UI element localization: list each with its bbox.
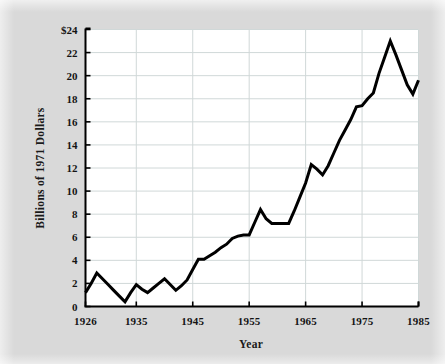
y-tick-label: 22 <box>67 47 79 59</box>
y-tick-label: 6 <box>72 231 78 243</box>
y-tick-label: 16 <box>67 116 79 128</box>
y-tick-label: 20 <box>67 70 79 82</box>
x-axis-tick-labels: 1926193519451955196519751985 <box>74 315 430 327</box>
y-tick-label: 0 <box>72 301 78 313</box>
x-axis-title: Year <box>239 338 263 350</box>
y-tick-label: 8 <box>72 208 78 220</box>
line-chart: 0246810121416182022$24 19261935194519551… <box>0 0 445 364</box>
y-tick-label: 14 <box>67 139 79 151</box>
y-tick-label: 4 <box>72 254 78 266</box>
chart-figure: 0246810121416182022$24 19261935194519551… <box>0 0 445 364</box>
y-tick-label: $24 <box>61 24 78 36</box>
y-tick-label: 18 <box>67 93 79 105</box>
y-axis-tick-labels: 0246810121416182022$24 <box>61 24 78 313</box>
x-tick-label: 1945 <box>181 315 204 327</box>
y-tick-label: 10 <box>67 185 79 197</box>
x-tick-label: 1965 <box>294 315 317 327</box>
y-tick-label: 2 <box>72 277 78 289</box>
x-tick-label: 1955 <box>238 315 261 327</box>
x-tick-label: 1975 <box>351 315 374 327</box>
x-tick-label: 1926 <box>74 315 97 327</box>
y-axis-title: Billions of 1971 Dollars <box>34 107 46 228</box>
x-tick-label: 1935 <box>125 315 148 327</box>
y-tick-label: 12 <box>67 162 79 174</box>
x-tick-label: 1985 <box>407 315 430 327</box>
